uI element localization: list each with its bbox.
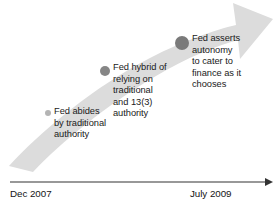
milestone-dot-middle: [100, 66, 110, 76]
milestone-dot-early: [45, 110, 51, 116]
milestone-label-late: Fed asserts autonomy to cater to finance…: [192, 33, 272, 91]
timeline-figure: Fed abides by traditional authority Fed …: [0, 0, 279, 213]
milestone-label-middle: Fed hybrid of relying on traditional and…: [113, 62, 185, 120]
axis-label-start: Dec 2007: [10, 188, 52, 199]
milestone-dot-late: [175, 36, 189, 50]
axis-label-end: July 2009: [190, 188, 232, 199]
